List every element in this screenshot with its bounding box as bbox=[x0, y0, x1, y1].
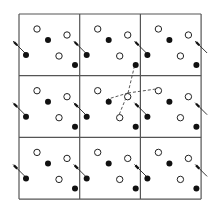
open-circle-icon bbox=[125, 94, 131, 100]
filled-circle-icon bbox=[193, 62, 199, 68]
open-circle-icon bbox=[117, 53, 123, 59]
filled-circle-icon bbox=[144, 175, 150, 181]
arrow-head-icon bbox=[135, 165, 138, 168]
open-circle-icon bbox=[56, 115, 62, 121]
arrow-head-icon bbox=[75, 104, 78, 107]
dashed-link bbox=[128, 89, 156, 93]
dashed-link bbox=[128, 64, 135, 93]
open-circle-icon bbox=[64, 94, 70, 100]
open-circle-icon bbox=[34, 149, 40, 155]
filled-circle-icon bbox=[84, 175, 90, 181]
open-circle-icon bbox=[177, 176, 183, 182]
filled-circle-icon bbox=[72, 185, 78, 191]
open-circle-icon bbox=[125, 155, 131, 161]
arrow-head-icon bbox=[75, 42, 78, 45]
lattice-diagram bbox=[0, 0, 218, 215]
open-circle-icon bbox=[95, 26, 101, 32]
open-circle-icon bbox=[185, 155, 191, 161]
filled-circle-icon bbox=[84, 52, 90, 58]
filled-circle-icon bbox=[166, 99, 172, 105]
open-circle-icon bbox=[34, 88, 40, 94]
lattice-points bbox=[23, 26, 199, 192]
filled-circle-icon bbox=[72, 62, 78, 68]
filled-circle-icon bbox=[106, 160, 112, 166]
filled-circle-icon bbox=[45, 99, 51, 105]
arrow-head-icon bbox=[196, 165, 199, 168]
filled-circle-icon bbox=[133, 124, 139, 130]
arrow-head-icon bbox=[75, 165, 78, 168]
open-circle-icon bbox=[56, 53, 62, 59]
open-circle-icon bbox=[185, 94, 191, 100]
filled-circle-icon bbox=[166, 160, 172, 166]
filled-circle-icon bbox=[193, 124, 199, 130]
filled-circle-icon bbox=[106, 37, 112, 43]
filled-circle-icon bbox=[193, 185, 199, 191]
arrow-head-icon bbox=[14, 42, 17, 45]
filled-circle-icon bbox=[45, 37, 51, 43]
arrow-head-icon bbox=[196, 42, 199, 45]
arrow-head-icon bbox=[196, 104, 199, 107]
filled-circle-icon bbox=[23, 114, 29, 120]
open-circle-icon bbox=[177, 53, 183, 59]
open-circle-icon bbox=[185, 32, 191, 38]
filled-circle-icon bbox=[106, 99, 112, 105]
filled-circle-icon bbox=[72, 124, 78, 130]
open-circle-icon bbox=[125, 32, 131, 38]
open-circle-icon bbox=[155, 88, 161, 94]
filled-circle-icon bbox=[144, 52, 150, 58]
open-circle-icon bbox=[56, 176, 62, 182]
open-circle-icon bbox=[95, 88, 101, 94]
open-circle-icon bbox=[117, 176, 123, 182]
filled-circle-icon bbox=[133, 62, 139, 68]
open-circle-icon bbox=[34, 26, 40, 32]
dashed-connections bbox=[108, 64, 156, 115]
filled-circle-icon bbox=[23, 175, 29, 181]
open-circle-icon bbox=[117, 115, 123, 121]
arrow-head-icon bbox=[14, 104, 17, 107]
filled-circle-icon bbox=[23, 52, 29, 58]
arrow-head-icon bbox=[135, 42, 138, 45]
filled-circle-icon bbox=[45, 160, 51, 166]
filled-circle-icon bbox=[84, 114, 90, 120]
arrow-head-icon bbox=[135, 104, 138, 107]
open-circle-icon bbox=[95, 149, 101, 155]
open-circle-icon bbox=[64, 155, 70, 161]
open-circle-icon bbox=[64, 32, 70, 38]
arrow-markers bbox=[13, 41, 207, 176]
filled-circle-icon bbox=[144, 114, 150, 120]
filled-circle-icon bbox=[166, 37, 172, 43]
arrow-head-icon bbox=[14, 165, 17, 168]
open-circle-icon bbox=[177, 115, 183, 121]
open-circle-icon bbox=[155, 26, 161, 32]
filled-circle-icon bbox=[133, 185, 139, 191]
open-circle-icon bbox=[155, 149, 161, 155]
